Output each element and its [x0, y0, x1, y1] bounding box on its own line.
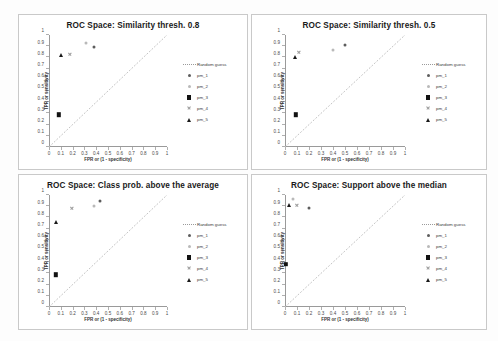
- y-tick: [282, 135, 285, 136]
- y-tick: [46, 68, 49, 69]
- figure-page: ROC Space: Similarity thresh. 0.8 00.10.…: [0, 0, 498, 341]
- x-tick-label: 0.5: [342, 151, 348, 156]
- x-tick: [73, 307, 74, 310]
- legend-item-pm_4: pm_4: [420, 103, 482, 114]
- axes: 00.10.20.30.40.50.60.70.80.9100.10.20.30…: [49, 195, 167, 307]
- legend-label: pm_2: [436, 244, 447, 249]
- x-tick-label: 0.1: [294, 151, 300, 156]
- y-tick: [46, 284, 49, 285]
- x-tick-label: 0.6: [354, 311, 360, 316]
- x-tick: [369, 147, 370, 150]
- legend-label: pm_3: [436, 255, 447, 260]
- data-point-pm_4: [67, 52, 71, 56]
- x-tick: [405, 307, 406, 310]
- y-tick-label: 0.1: [274, 129, 280, 134]
- x-tick-label: 0.5: [342, 311, 348, 316]
- y-tick-label: 0.7: [38, 62, 44, 67]
- panel-title: ROC Space: Class prob. above the average: [19, 181, 247, 190]
- data-point-pm_3: [294, 112, 298, 116]
- x-tick-label: 0.8: [140, 151, 146, 156]
- x-tick: [61, 307, 62, 310]
- legend-marker-icon: [181, 74, 197, 77]
- legend-item-random-guess: Random guess: [181, 219, 243, 230]
- x-tick-label: 0.7: [366, 151, 372, 156]
- legend-marker-icon: [420, 266, 436, 270]
- x-tick: [309, 147, 310, 150]
- legend-item-pm_5: pm_5: [420, 114, 482, 125]
- x-tick: [132, 147, 133, 150]
- x-tick-label: 0.3: [318, 311, 324, 316]
- legend-item-pm_1: pm_1: [181, 70, 243, 81]
- data-point-pm_2: [92, 204, 95, 207]
- x-tick-label: 0.3: [81, 311, 87, 316]
- legend-item-pm_5: pm_5: [181, 274, 243, 285]
- y-axis-line: [49, 195, 50, 307]
- y-tick-label: 0.9: [38, 39, 44, 44]
- y-tick: [282, 68, 285, 69]
- data-point-pm_2: [292, 197, 295, 200]
- x-tick: [108, 307, 109, 310]
- y-axis-title: TPR or sensitivity: [44, 72, 49, 110]
- legend-label: pm_2: [197, 244, 208, 249]
- legend-item-pm_2: pm_2: [181, 81, 243, 92]
- legend-marker-icon: [420, 106, 436, 110]
- plot-area: 00.10.20.30.40.50.60.70.80.9100.10.20.30…: [49, 35, 167, 147]
- y-tick: [282, 284, 285, 285]
- x-tick-label: 0.6: [117, 311, 123, 316]
- legend-item-pm_2: pm_2: [420, 81, 482, 92]
- y-tick: [46, 34, 49, 35]
- y-tick: [282, 205, 285, 206]
- legend-marker-icon: [181, 106, 197, 110]
- legend-marker-icon: [181, 234, 197, 237]
- legend-item-pm_3: pm_3: [420, 92, 482, 103]
- data-point-pm_1: [308, 207, 311, 210]
- legend-item-pm_2: pm_2: [420, 241, 482, 252]
- x-tick-label: 0.3: [81, 151, 87, 156]
- legend-marker-icon: [181, 85, 197, 88]
- legend-label: pm_3: [436, 95, 447, 100]
- legend-label: pm_5: [436, 277, 447, 282]
- data-point-pm_1: [98, 200, 101, 203]
- legend-item-pm_4: pm_4: [181, 103, 243, 114]
- x-axis-title: FPR or (1 - specificity): [285, 317, 405, 322]
- y-tick: [46, 124, 49, 125]
- x-tick-label: 0.5: [105, 151, 111, 156]
- legend-marker-icon: [420, 95, 436, 99]
- y-tick-label: 0.2: [38, 278, 44, 283]
- legend-marker-icon: [181, 245, 197, 248]
- legend-item-pm_5: pm_5: [420, 274, 482, 285]
- legend-item-pm_1: pm_1: [420, 230, 482, 241]
- y-tick-label: 0.8: [38, 50, 44, 55]
- x-tick-label: 0.8: [140, 311, 146, 316]
- data-point-pm_1: [92, 45, 95, 48]
- x-tick-label: 0.1: [58, 311, 64, 316]
- y-axis-line: [49, 35, 50, 147]
- legend-item-pm_3: pm_3: [181, 252, 243, 263]
- x-tick: [381, 307, 382, 310]
- y-tick-label: 1: [277, 188, 280, 193]
- data-point-pm_2: [84, 41, 87, 44]
- y-tick-label: 0.7: [274, 222, 280, 227]
- x-tick: [321, 307, 322, 310]
- x-tick: [49, 307, 50, 310]
- legend-marker-icon: [181, 95, 197, 99]
- legend-label: pm_5: [197, 117, 208, 122]
- legend-item-pm_5: pm_5: [181, 114, 243, 125]
- x-tick: [309, 307, 310, 310]
- legend-item-pm_1: pm_1: [420, 70, 482, 81]
- x-tick-label: 0.1: [58, 151, 64, 156]
- x-tick-label: 0.1: [294, 311, 300, 316]
- legend-label: pm_2: [436, 84, 447, 89]
- legend-label: Random guess: [436, 222, 466, 227]
- plot-area: 00.10.20.30.40.50.60.70.80.9100.10.20.30…: [285, 35, 405, 147]
- y-tick-label: 0.1: [38, 289, 44, 294]
- y-tick-label: 0.7: [38, 222, 44, 227]
- x-tick: [381, 147, 382, 150]
- legend-label: Random guess: [436, 62, 466, 67]
- legend-item-random-guess: Random guess: [420, 219, 482, 230]
- x-tick-label: 0.2: [69, 311, 75, 316]
- x-tick: [49, 147, 50, 150]
- x-tick: [357, 147, 358, 150]
- x-tick-label: 0.5: [105, 311, 111, 316]
- legend-marker-icon: [181, 278, 197, 282]
